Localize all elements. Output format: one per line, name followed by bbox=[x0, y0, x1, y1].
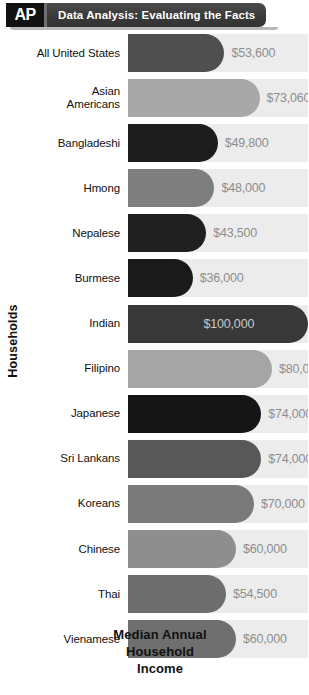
bar-value-label: $43,500 bbox=[213, 214, 257, 252]
bar bbox=[128, 575, 226, 613]
bar-track: $54,500 bbox=[128, 575, 308, 613]
bar-row: Sri Lankans$74,000 bbox=[26, 440, 308, 478]
bar-row-label: Filipino bbox=[26, 362, 128, 375]
bar-value-label: $49,800 bbox=[225, 124, 269, 162]
bar bbox=[128, 395, 261, 433]
bar bbox=[128, 79, 260, 117]
bar bbox=[128, 350, 272, 388]
bar-track: $53,600 bbox=[128, 34, 308, 72]
bar-row: Burmese$36,000 bbox=[26, 259, 308, 297]
chart-area: Households All United States$53,600Asian… bbox=[0, 31, 308, 651]
bar-row-label: Hmong bbox=[26, 182, 128, 195]
caption-line-1: Median Annual bbox=[26, 626, 294, 643]
bar-track: $74,000 bbox=[128, 440, 308, 478]
bar-rows: All United States$53,600AsianAmericans$7… bbox=[26, 34, 308, 665]
bar-row-label: Nepalese bbox=[26, 227, 128, 240]
bar-row: Thai$54,500 bbox=[26, 575, 308, 613]
bar-value-label: $60,000 bbox=[243, 530, 287, 568]
bar-value-label: $100,000 bbox=[204, 305, 255, 343]
bar-track: $36,000 bbox=[128, 259, 308, 297]
bar-track: $100,000 bbox=[128, 305, 308, 343]
header-shadow bbox=[10, 27, 278, 30]
bar-row: Nepalese$43,500 bbox=[26, 214, 308, 252]
bar-row: Hmong$48,000 bbox=[26, 169, 308, 207]
bar-row: All United States$53,600 bbox=[26, 34, 308, 72]
bar-value-label: $36,000 bbox=[200, 259, 244, 297]
x-axis-caption: Median Annual Household Income bbox=[26, 626, 294, 677]
bar-track: $49,800 bbox=[128, 124, 308, 162]
bar bbox=[128, 440, 261, 478]
bar-track: $48,000 bbox=[128, 169, 308, 207]
bar-row-label: AsianAmericans bbox=[26, 85, 128, 111]
bar-row-label: Sri Lankans bbox=[26, 452, 128, 465]
bar-row-label: Bangladeshi bbox=[26, 137, 128, 150]
y-axis-title: Households bbox=[0, 31, 26, 651]
bar-value-label: $53,600 bbox=[231, 34, 275, 72]
bar-value-label: $54,500 bbox=[233, 575, 277, 613]
bar-track: $74,000 bbox=[128, 395, 308, 433]
bar-row-label: Japanese bbox=[26, 407, 128, 420]
bar-row: AsianAmericans$73,060 bbox=[26, 79, 308, 117]
bar-value-label: $74,000 bbox=[268, 440, 308, 478]
bar bbox=[128, 34, 224, 72]
bar-row: Indian$100,000 bbox=[26, 305, 308, 343]
bar-row: Japanese$74,000 bbox=[26, 395, 308, 433]
header-banner: AP Data Analysis: Evaluating the Facts bbox=[0, 3, 308, 31]
bar-row-label: Koreans bbox=[26, 497, 128, 510]
bar-track: $43,500 bbox=[128, 214, 308, 252]
bar bbox=[128, 124, 218, 162]
bar bbox=[128, 214, 206, 252]
bar bbox=[128, 530, 236, 568]
bar-track: $80,000 bbox=[128, 350, 308, 388]
bar-row: Koreans$70,000 bbox=[26, 485, 308, 523]
y-axis-title-text: Households bbox=[6, 304, 20, 378]
bar-track: $73,060 bbox=[128, 79, 308, 117]
ap-logo: AP bbox=[6, 3, 44, 27]
header-bar: AP Data Analysis: Evaluating the Facts bbox=[6, 3, 266, 27]
bar-row-label: Chinese bbox=[26, 543, 128, 556]
header-title: Data Analysis: Evaluating the Facts bbox=[47, 9, 255, 21]
caption-line-2: Household bbox=[26, 643, 294, 660]
bar-row: Bangladeshi$49,800 bbox=[26, 124, 308, 162]
bar-value-label: $48,000 bbox=[221, 169, 265, 207]
bar-value-label: $70,000 bbox=[261, 485, 305, 523]
bar-track: $70,000 bbox=[128, 485, 308, 523]
bar-row: Chinese$60,000 bbox=[26, 530, 308, 568]
bar-value-label: $73,060 bbox=[267, 79, 309, 117]
caption-line-3: Income bbox=[26, 660, 294, 677]
bar-row: Filipino$80,000 bbox=[26, 350, 308, 388]
bar-row-label: All United States bbox=[26, 47, 128, 60]
bar bbox=[128, 485, 254, 523]
bar-row-label: Indian bbox=[26, 317, 128, 330]
bar-track: $60,000 bbox=[128, 530, 308, 568]
bar-row-label: Thai bbox=[26, 588, 128, 601]
bar bbox=[128, 259, 193, 297]
bar-value-label: $74,000 bbox=[268, 395, 308, 433]
bar-row-label: Burmese bbox=[26, 272, 128, 285]
bar-value-label: $80,000 bbox=[279, 350, 308, 388]
bar bbox=[128, 169, 214, 207]
